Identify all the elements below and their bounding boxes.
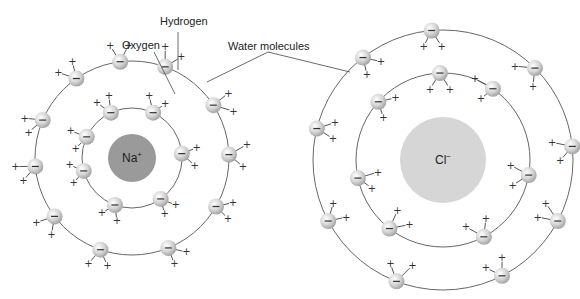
hydrogen-plus-icon: + [71,143,79,154]
hydrogen-plus-icon: + [393,205,401,216]
water-molecule: ++ [355,50,385,81]
hydrogen-plus-icon: + [342,212,350,223]
water-molecule: ++ [174,142,201,171]
hydrogen-plus-icon: + [229,106,237,117]
hydrogen-plus-icon: + [511,61,519,72]
water-molecule: ++ [208,197,237,224]
water-molecule: ++ [309,117,339,144]
water-molecule: ++ [419,22,445,52]
water-molecule: ++ [11,158,43,186]
hydrogen-plus-icon: + [419,41,427,52]
water-molecule: ++ [84,242,111,272]
hydrogen-plus-icon: + [191,160,199,171]
hydrogen-plus-icon: + [446,84,454,95]
hydrogen-plus-icon: + [103,260,111,271]
hydrogen-plus-icon: + [68,56,76,67]
water-molecule: ++ [511,60,543,92]
water-molecule: ++ [21,112,51,137]
hydrogen-label: Hydrogen [160,15,208,27]
hydrogen-plus-icon: + [534,212,542,223]
hydrogen-plus-icon: + [386,258,394,269]
hydrogen-plus-icon: + [54,67,62,78]
hydrogen-plus-icon: + [170,258,178,269]
ion-charge: − [446,152,451,161]
hydrogen-plus-icon: + [471,73,479,84]
sodium-hydration-shell: Na+++++++++++++++++++++++++++++++++++++ [11,40,251,271]
hydrogen-plus-icon: + [19,175,27,186]
water-molecule: ++ [381,205,413,237]
hydrogen-plus-icon: + [105,90,113,101]
water-molecule: ++ [160,240,190,270]
hydrogen-plus-icon: + [542,198,550,209]
hydrogen-plus-icon: + [113,215,121,226]
hydrogen-plus-icon: + [21,113,29,124]
hydrogen-plus-icon: + [224,213,232,224]
hydrogen-plus-icon: + [182,246,190,257]
water-molecule: ++ [534,198,566,230]
water-molecule: ++ [221,139,251,172]
oxygen-leader-line [154,52,175,94]
hydrogen-plus-icon: + [161,98,169,109]
hydrogen-plus-icon: + [482,213,490,224]
hydrogen-plus-icon: + [11,161,19,172]
hydrogen-plus-icon: + [374,167,382,178]
hydrogen-plus-icon: + [329,133,337,144]
water-molecule: ++ [471,73,501,104]
water-molecule: ++ [426,65,454,95]
hydrogen-plus-icon: + [171,199,179,210]
water-molecule: ++ [98,197,123,227]
hydrogen-plus-icon: + [405,219,413,230]
hydrogen-plus-icon: + [32,217,40,228]
water-molecule: ++ [145,90,169,121]
hydrogen-plus-icon: + [160,208,168,219]
hydrogen-plus-icon: + [556,155,564,166]
chloride-hydration-shell: Cl−++++++++++++++++++++++++++++++++ [309,22,580,290]
hydrogen-plus-icon: + [98,207,106,218]
hydrogen-plus-icon: + [363,69,371,80]
hydrogen-plus-icon: + [243,139,251,150]
hydrogen-plus-icon: + [84,258,92,269]
hydrogen-plus-icon: + [368,183,376,194]
hydrogen-plus-icon: + [239,161,247,172]
hydrogen-plus-icon: + [498,252,506,263]
water-molecule: ++ [66,159,92,188]
hydrogen-plus-icon: + [224,88,232,99]
hydrogen-plus-icon: + [161,41,169,52]
hydrogen-plus-icon: + [329,198,337,209]
hydrogen-plus-icon: + [462,221,470,232]
hydrogen-plus-icon: + [229,197,237,208]
hydrogen-plus-icon: + [106,40,114,51]
hydrogen-plus-icon: + [477,93,485,104]
water-molecule: ++ [370,92,399,123]
water-molecule: ++ [506,160,536,191]
hydrogen-plus-icon: + [408,260,416,271]
water-molecule: ++ [386,258,416,290]
hydrogen-plus-icon: + [66,159,74,170]
hydrogen-plus-icon: + [331,117,339,128]
water-molecule: ++ [350,167,382,194]
water-molecule: ++ [462,213,492,245]
hydrogen-plus-icon: + [437,41,445,52]
water-molecule: ++ [93,90,119,121]
hydrogen-plus-icon: + [506,160,514,171]
water-molecule: ++ [482,252,510,284]
ion-hydration-diagram: Na+++++++++++++++++++++++++++++++++++++ … [0,0,580,299]
hydrogen-plus-icon: + [548,137,556,148]
hydrogen-plus-icon: + [391,92,399,103]
hydrogen-plus-icon: + [379,112,387,123]
water-molecules-leader-line [207,52,350,82]
hydrogen-plus-icon: + [529,81,537,92]
hydrogen-plus-icon: + [426,84,434,95]
water-molecule: ++ [548,137,580,166]
water-molecule: ++ [54,56,84,87]
water-molecule: ++ [153,191,180,220]
hydrogen-plus-icon: + [193,142,201,153]
water-molecule: ++ [205,88,237,117]
hydrogen-plus-icon: + [47,229,55,240]
hydrogen-plus-icon: + [93,97,101,108]
hydrogen-plus-icon: + [66,125,74,136]
hydrogen-plus-icon: + [377,56,385,67]
hydrogen-plus-icon: + [25,127,33,138]
ion-charge: + [137,150,142,159]
hydrogen-plus-icon: + [70,177,78,188]
